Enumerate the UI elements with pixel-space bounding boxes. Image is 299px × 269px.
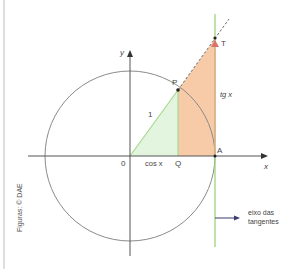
tan-region-fill [178,39,215,156]
point-p-marker [176,88,180,92]
point-a-label: A [217,146,223,155]
tan-label: tg x [220,90,232,99]
origin-label: 0 [121,159,126,168]
x-axis-label: x [263,162,269,171]
cos-label-text: cos x [145,159,163,168]
tangent-axis-label-line2: tangentes [248,218,279,226]
y-axis-label: y [119,48,125,57]
point-q-label: Q [175,159,181,168]
radius-label: 1 [148,110,153,119]
unit-circle-tangent-diagram: Figuras: © DAE y x 0 P Q A T 1 cos x tg … [0,0,299,269]
point-t-label: T [221,39,226,48]
y-axis-arrow-icon [127,50,133,57]
x-axis-arrow-icon [261,153,268,159]
tangent-axis-pointer-arrow-icon [234,216,240,221]
credit-text: Figuras: © DAE [16,183,24,232]
tangent-axis-label-line1: eixo das [248,209,275,216]
point-t-dot [213,36,216,39]
point-p-label: P [172,78,177,87]
cos-label: cos x [145,159,163,168]
